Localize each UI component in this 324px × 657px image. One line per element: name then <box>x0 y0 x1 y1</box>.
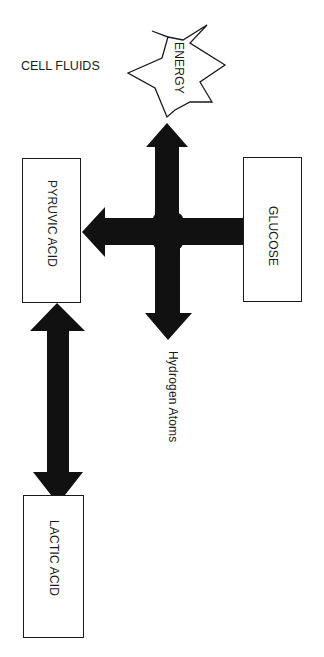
pyruvic-acid-label: PYRUVIC ACID <box>45 180 59 267</box>
lactic-acid-label: LACTIC ACID <box>47 520 61 596</box>
energy-label: ENERGY <box>172 42 186 94</box>
hydrogen-atoms-label: Hydrogen Atoms <box>166 351 180 443</box>
double-arrow-pyruvic-lactic <box>30 303 85 504</box>
arrow-intersection <box>153 213 183 249</box>
cell-fluids-label: CELL FLUIDS <box>21 59 100 73</box>
glucose-label: GLUCOSE <box>266 206 280 266</box>
